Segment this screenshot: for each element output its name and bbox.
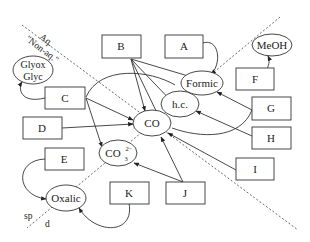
svg-text:J: J (183, 187, 188, 199)
svg-text:A: A (180, 40, 188, 52)
svg-text:Glyox: Glyox (21, 59, 46, 70)
svg-text:CO: CO (144, 117, 159, 129)
edge-d-co (62, 124, 133, 128)
edge-c-glyox (20, 82, 45, 99)
sp-label: sp (24, 211, 33, 221)
node-formic: Formic (181, 71, 223, 95)
box-g: G (252, 97, 291, 120)
box-i: I (236, 158, 274, 180)
node-co: CO (133, 110, 171, 136)
edge-c-co3 (86, 98, 102, 147)
svg-text:Formic: Formic (186, 77, 218, 89)
svg-text:3: 3 (124, 155, 127, 162)
svg-text:h.c.: h.c. (172, 98, 188, 110)
edge-h-hc (196, 111, 252, 136)
svg-text:G: G (267, 102, 275, 114)
svg-text:H: H (267, 132, 275, 144)
svg-text:Oxalic: Oxalic (51, 192, 80, 204)
svg-text:CO: CO (105, 147, 120, 159)
svg-text:C: C (61, 92, 68, 104)
edge-c-arc (86, 73, 175, 97)
svg-text:MeOH: MeOH (257, 39, 288, 51)
svg-text:I: I (253, 163, 257, 175)
edge-j-co3 (134, 163, 183, 182)
svg-text:B: B (117, 40, 124, 52)
d-label: d (45, 219, 50, 229)
node-hc: h.c. (161, 91, 199, 117)
box-c: C (45, 87, 85, 109)
svg-text:F: F (252, 73, 258, 85)
box-j: J (166, 182, 205, 204)
node-glyox-glyc: Glyox Glyc (13, 56, 53, 84)
edge-k-oxalic (79, 203, 130, 228)
edge-c-co (86, 98, 133, 120)
svg-text:E: E (61, 153, 68, 165)
reaction-diagram: Aq. "Non-aq." sp d Glyox Glyc MeOH (0, 0, 310, 242)
box-k: K (110, 182, 149, 204)
box-a: A (165, 35, 203, 58)
svg-text:Glyc: Glyc (23, 71, 43, 82)
node-oxalic: Oxalic (46, 185, 86, 211)
edge-g-formic (217, 92, 252, 110)
box-b: B (102, 35, 141, 58)
edge-i-co (168, 133, 236, 170)
svg-text:2−: 2− (126, 145, 133, 152)
edge-j-co (161, 137, 183, 182)
svg-text:D: D (38, 122, 46, 134)
box-f: F (236, 68, 274, 90)
box-h: H (252, 127, 291, 149)
node-meoh: MeOH (252, 34, 292, 56)
box-e: E (45, 148, 84, 170)
edge-e-oxalic (23, 159, 46, 199)
box-d: D (23, 117, 62, 139)
svg-text:K: K (125, 187, 133, 199)
node-co3: CO 2− 3 (99, 140, 137, 166)
